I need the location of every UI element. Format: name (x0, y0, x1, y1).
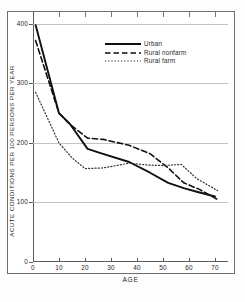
chart-figure: ACUTE CONDITIONS PER 100 PERSONS PER YEA… (0, 0, 245, 302)
x-tick-label: 10 (55, 265, 63, 271)
y-tick-label: 100 (17, 199, 28, 205)
x-axis-title: AGE (33, 276, 228, 283)
y-tick (29, 262, 33, 263)
series-line-rural-farm (36, 92, 218, 190)
legend-swatch-solid (105, 40, 141, 48)
x-tick-label: 30 (107, 265, 115, 271)
legend-label: Urban (144, 41, 162, 47)
y-tick-label: 0 (24, 259, 28, 265)
y-tick-label: 200 (17, 140, 28, 146)
legend-item-rural-farm: Rural farm (105, 57, 197, 66)
legend-label: Rural farm (144, 58, 175, 64)
x-tick-label: 20 (81, 265, 89, 271)
x-tick-label: 70 (211, 265, 219, 271)
y-axis-title: ACUTE CONDITIONS PER 100 PERSONS PER YEA… (8, 65, 15, 236)
legend-item-rural-nonfarm: Rural nonfarm (105, 49, 197, 58)
x-tick-label: 40 (133, 265, 141, 271)
x-tick-label: 50 (159, 265, 167, 271)
x-tick-label: 60 (185, 265, 193, 271)
x-tick-label: 0 (31, 265, 35, 271)
legend-swatch-dashed (105, 49, 141, 57)
legend-swatch-dotted (105, 57, 141, 65)
y-tick-label: 300 (17, 80, 28, 86)
y-tick-label: 400 (17, 21, 28, 27)
legend-item-urban: Urban (105, 40, 197, 49)
legend-label: Rural nonfarm (144, 50, 187, 56)
chart-legend: UrbanRural nonfarmRural farm (105, 40, 197, 66)
